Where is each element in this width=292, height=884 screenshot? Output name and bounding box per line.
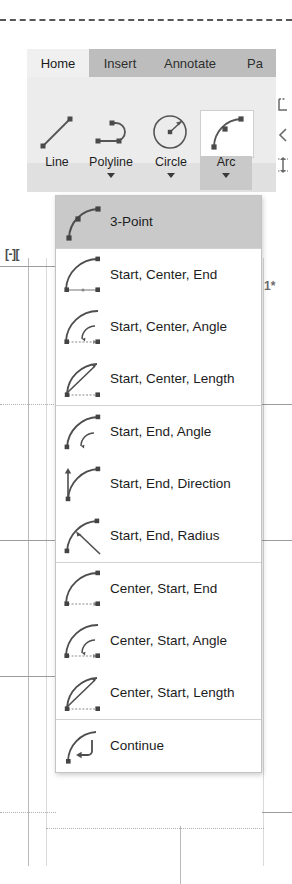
- ribbon-tab-bar: Home Insert Annotate Pa: [27, 49, 276, 77]
- arc-start-end-direction-icon: [56, 458, 110, 510]
- menu-item-start-center-length[interactable]: Start, Center, Length: [56, 353, 261, 405]
- menu-item-continue-label: Continue: [110, 739, 164, 753]
- polyline-caret-icon[interactable]: [107, 173, 115, 178]
- arc-start-end-angle-icon: [56, 406, 110, 458]
- leader-icon: [276, 127, 290, 143]
- drawing-hline-r1: [262, 404, 292, 405]
- tab-home[interactable]: Home: [27, 49, 89, 77]
- tool-polyline[interactable]: Polyline: [85, 110, 137, 190]
- drawing-hline-2: [0, 404, 56, 405]
- drawing-hline-r2: [262, 540, 292, 541]
- menu-item-start-center-length-label: Start, Center, Length: [110, 372, 235, 386]
- tab-annotate[interactable]: Annotate: [151, 49, 229, 77]
- menu-item-3-point[interactable]: 3-Point: [56, 196, 261, 248]
- menu-item-center-start-angle[interactable]: Center, Start, Angle: [56, 615, 261, 667]
- menu-item-center-start-length-label: Center, Start, Length: [110, 686, 235, 700]
- menu-item-center-start-length[interactable]: Center, Start, Length: [56, 667, 261, 719]
- arc-3point-icon: [56, 196, 110, 248]
- drawing-hline-4: [0, 676, 56, 677]
- grid-marker: 1*: [264, 279, 275, 293]
- ribbon: Home Insert Annotate Pa Line: [27, 49, 276, 192]
- drawing-hline-3: [0, 540, 56, 541]
- tool-line-label: Line: [45, 156, 69, 169]
- menu-item-start-center-angle[interactable]: Start, Center, Angle: [56, 301, 261, 353]
- tool-arc-label: Arc: [217, 156, 236, 169]
- menu-item-start-end-direction[interactable]: Start, End, Direction: [56, 458, 261, 510]
- annotate-side-icons: [276, 90, 292, 180]
- circle-caret-icon[interactable]: [167, 173, 175, 178]
- text-style-icon: [276, 97, 290, 113]
- tab-home-label: Home: [41, 56, 76, 71]
- tool-arc[interactable]: Arc: [200, 110, 252, 190]
- menu-item-center-start-angle-label: Center, Start, Angle: [110, 634, 227, 648]
- polyline-icon: [86, 110, 136, 154]
- arc-start-center-length-icon: [56, 353, 110, 405]
- tool-polyline-label: Polyline: [89, 156, 133, 169]
- tool-circle-label: Circle: [155, 156, 187, 169]
- menu-item-center-start-end[interactable]: Center, Start, End: [56, 563, 261, 615]
- menu-item-start-end-radius[interactable]: Start, End, Radius: [56, 510, 261, 562]
- drawing-vline-right: [263, 258, 264, 866]
- tab-parametric-label: Pa: [247, 56, 263, 71]
- arc-start-center-end-icon: [56, 249, 110, 301]
- tool-line[interactable]: Line: [31, 110, 83, 190]
- drawing-vline-left: [28, 258, 29, 866]
- tab-parametric[interactable]: Pa: [235, 49, 275, 77]
- drawing-hline-5: [0, 812, 56, 813]
- tab-insert-label: Insert: [104, 56, 137, 71]
- drawing-hline-bottom: [46, 828, 264, 829]
- menu-item-3-point-label: 3-Point: [110, 215, 153, 229]
- drawing-vline-left2: [46, 258, 47, 866]
- line-icon: [32, 110, 82, 154]
- menu-item-start-center-angle-label: Start, Center, Angle: [110, 320, 227, 334]
- dimension-icon: [276, 156, 290, 174]
- tab-insert[interactable]: Insert: [93, 49, 147, 77]
- text-style-icon-wrap[interactable]: [276, 90, 292, 120]
- menu-item-start-center-end[interactable]: Start, Center, End: [56, 249, 261, 301]
- circle-icon: [146, 110, 196, 154]
- dimension-icon-wrap[interactable]: [276, 150, 292, 180]
- arc-caret-icon[interactable]: [222, 173, 230, 178]
- menu-item-start-center-end-label: Start, Center, End: [110, 268, 217, 282]
- arc-start-center-angle-icon: [56, 301, 110, 353]
- tool-circle[interactable]: Circle: [145, 110, 197, 190]
- drawing-hline-1: [0, 266, 56, 267]
- menu-item-start-end-direction-label: Start, End, Direction: [110, 477, 231, 491]
- screen: [-][ 1* Home Insert Annotate Pa: [0, 0, 292, 884]
- menu-item-continue[interactable]: Continue: [56, 720, 261, 772]
- menu-item-start-end-angle-label: Start, End, Angle: [110, 425, 211, 439]
- draw-panel: Line Polyline: [27, 77, 276, 192]
- arc-continue-icon: [56, 720, 110, 772]
- leader-icon-wrap[interactable]: [276, 120, 292, 150]
- tab-annotate-label: Annotate: [164, 56, 216, 71]
- arc-center-start-length-icon: [56, 667, 110, 719]
- dashed-guide-line: [0, 19, 292, 21]
- arc-start-end-radius-icon: [56, 510, 110, 562]
- arc-dropdown-menu[interactable]: 3-Point Start, Center, End: [55, 195, 262, 773]
- viewport-label: [-][: [5, 247, 19, 261]
- arc-center-start-angle-icon: [56, 615, 110, 667]
- arc-icon: [201, 110, 251, 154]
- menu-item-start-end-radius-label: Start, End, Radius: [110, 529, 220, 543]
- menu-item-center-start-end-label: Center, Start, End: [110, 582, 217, 596]
- arc-center-start-end-icon: [56, 563, 110, 615]
- drawing-vline-mid: [180, 826, 181, 884]
- menu-item-start-end-angle[interactable]: Start, End, Angle: [56, 406, 261, 458]
- drawing-hline-r3: [262, 812, 292, 813]
